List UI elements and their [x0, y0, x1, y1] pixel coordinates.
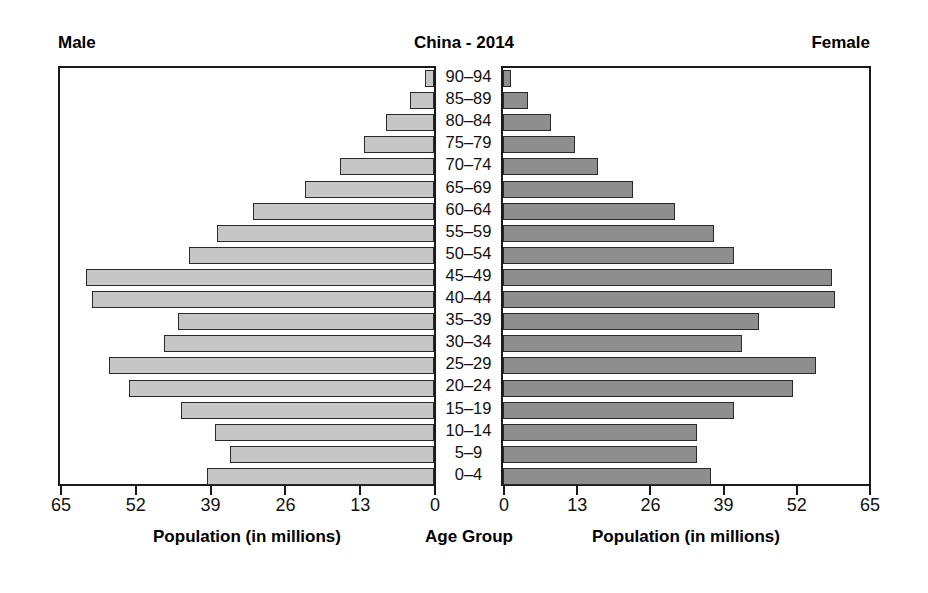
bar-female-65-69 — [503, 181, 633, 198]
bar-male-35-39 — [178, 313, 434, 330]
male-plot-area — [58, 66, 436, 486]
age-group-label: 70–74 — [436, 155, 501, 174]
age-group-label: 15–19 — [436, 399, 501, 418]
age-group-label: 50–54 — [436, 244, 501, 263]
bar-female-50-54 — [503, 247, 734, 264]
axis-tick — [434, 486, 436, 495]
age-group-label: 35–39 — [436, 310, 501, 329]
bar-male-60-64 — [253, 203, 434, 220]
bar-female-55-59 — [503, 225, 714, 242]
bar-male-15-19 — [181, 402, 434, 419]
bar-row — [503, 289, 869, 311]
bar-row — [60, 333, 434, 355]
bar-row — [60, 378, 434, 400]
female-axis-title: Population (in millions) — [501, 527, 871, 547]
bar-male-5-9 — [230, 446, 434, 463]
axis-tick — [649, 486, 651, 495]
bar-row — [503, 311, 869, 333]
bar-female-20-24 — [503, 380, 793, 397]
female-bars-group — [503, 68, 869, 484]
bar-male-45-49 — [86, 269, 434, 286]
age-group-label: 25–29 — [436, 354, 501, 373]
bar-row — [503, 333, 869, 355]
age-group-label: 55–59 — [436, 222, 501, 241]
bar-female-45-49 — [503, 269, 832, 286]
bar-row — [60, 267, 434, 289]
female-plot-area — [501, 66, 871, 486]
bar-female-15-19 — [503, 402, 734, 419]
axis-tick — [60, 486, 62, 495]
bar-row — [503, 267, 869, 289]
bar-row — [503, 223, 869, 245]
bar-male-10-14 — [215, 424, 434, 441]
bar-female-25-29 — [503, 357, 816, 374]
bar-row — [60, 245, 434, 267]
bar-row — [60, 355, 434, 377]
bar-row — [60, 466, 434, 488]
bar-male-25-29 — [109, 357, 434, 374]
bar-female-10-14 — [503, 424, 697, 441]
female-panel-heading: Female — [811, 33, 870, 53]
age-group-label: 10–14 — [436, 421, 501, 440]
age-group-label: 30–34 — [436, 332, 501, 351]
age-group-label: 0–4 — [436, 465, 501, 484]
bar-row — [60, 444, 434, 466]
bar-row — [60, 223, 434, 245]
bar-row — [60, 179, 434, 201]
age-group-label: 20–24 — [436, 376, 501, 395]
bar-row — [503, 134, 869, 156]
bar-female-60-64 — [503, 203, 675, 220]
axis-tick-label: 65 — [860, 495, 880, 516]
bar-female-35-39 — [503, 313, 759, 330]
axis-tick-label: 26 — [275, 495, 295, 516]
bar-row — [503, 68, 869, 90]
bar-row — [503, 201, 869, 223]
bar-row — [60, 68, 434, 90]
male-bars-group — [60, 68, 434, 484]
bar-male-70-74 — [340, 158, 434, 175]
bar-male-80-84 — [386, 114, 434, 131]
bar-male-75-79 — [364, 136, 434, 153]
axis-tick — [503, 486, 505, 495]
axis-tick-label: 13 — [350, 495, 370, 516]
population-pyramid-chart: Male China - 2014 Female 90–9485–8980–84… — [0, 0, 928, 593]
age-group-label: 90–94 — [436, 67, 501, 86]
age-group-label: 60–64 — [436, 200, 501, 219]
male-axis-title: Population (in millions) — [58, 527, 436, 547]
age-group-label-column: 90–9485–8980–8475–7970–7465–6960–6455–59… — [436, 66, 501, 486]
bar-female-75-79 — [503, 136, 575, 153]
bar-male-40-44 — [92, 291, 434, 308]
axis-tick — [796, 486, 798, 495]
bar-female-90-94 — [503, 70, 511, 87]
bar-row — [503, 378, 869, 400]
age-group-label: 85–89 — [436, 89, 501, 108]
bar-row — [503, 156, 869, 178]
bar-male-55-59 — [217, 225, 434, 242]
bar-female-0-4 — [503, 468, 711, 485]
bar-row — [60, 201, 434, 223]
bar-row — [60, 90, 434, 112]
age-group-label: 75–79 — [436, 133, 501, 152]
male-x-axis: 65523926130 — [58, 486, 436, 520]
axis-tick-label: 39 — [714, 495, 734, 516]
chart-title: China - 2014 — [0, 33, 928, 53]
bar-male-90-94 — [425, 70, 434, 87]
bar-female-5-9 — [503, 446, 697, 463]
bar-row — [503, 355, 869, 377]
bar-row — [60, 311, 434, 333]
axis-tick — [210, 486, 212, 495]
bar-row — [503, 444, 869, 466]
axis-tick — [359, 486, 361, 495]
bar-row — [60, 156, 434, 178]
axis-tick-label: 52 — [787, 495, 807, 516]
axis-tick — [869, 486, 871, 495]
bar-row — [503, 90, 869, 112]
bar-row — [503, 179, 869, 201]
axis-tick-label: 52 — [126, 495, 146, 516]
axis-tick-label: 0 — [499, 495, 509, 516]
bar-female-30-34 — [503, 335, 742, 352]
axis-tick-label: 0 — [430, 495, 440, 516]
bar-male-65-69 — [305, 181, 434, 198]
age-group-label: 65–69 — [436, 178, 501, 197]
bar-row — [503, 422, 869, 444]
